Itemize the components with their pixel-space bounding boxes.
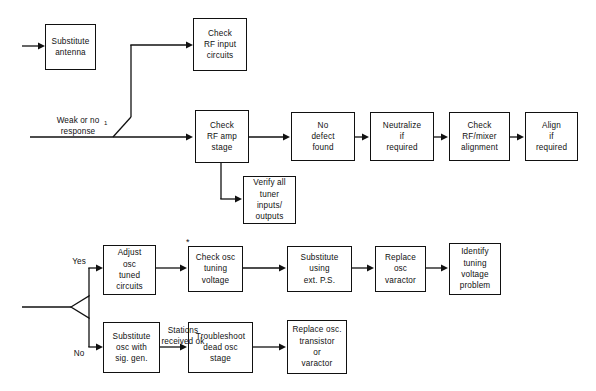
arrowhead-checkosc [180,265,187,272]
edge-label-yes: Yes [66,256,92,267]
wire-branch-diagonal [113,117,131,137]
node-no-defect-found[interactable]: No defect found [291,112,355,161]
node-substitute-antenna[interactable]: Substitute antenna [45,24,96,70]
edge-label-no: No [67,348,91,359]
node-check-rf-input-circuits[interactable]: Check RF input circuits [193,18,247,71]
arrowhead-align [517,134,524,141]
node-adjust-osc-tuned-circuits[interactable]: Adjust osc tuned circuits [103,245,156,295]
footnote-marker-response: 1 [104,120,107,126]
asterisk-marker-check-osc-tuning: * [186,238,190,247]
arrowhead-extps [279,265,286,272]
node-replace-osc-varactor[interactable]: Replace osc varactor [375,246,426,292]
arrowhead-nodefect [283,134,290,141]
node-check-rf-mixer-alignment[interactable]: Check RF/mixer alignment [449,112,510,161]
arrowhead-rf-amp [186,134,193,141]
arrowhead-rf-input [186,42,193,49]
arrowhead-alignment [441,134,448,141]
arrowhead-varactor [367,265,374,272]
arrowhead-substitute-siggen [96,344,103,351]
node-check-osc-tuning-voltage[interactable]: Check osc tuning voltage [188,246,243,292]
arrowhead-adjust-osc [96,265,103,272]
edge-label-weak-or-no-response: Weak or no response [42,115,114,137]
node-substitute-using-ext-ps[interactable]: Substitute using ext. P.S. [287,246,352,292]
arrowhead-neutralize [362,134,369,141]
node-replace-osc-transistor-or-varactor[interactable]: Replace osc. transistor or varactor [287,320,347,374]
arrowhead-verify-tuner [235,196,242,203]
flowchart-canvas: Substitute antenna Check RF input circui… [0,0,596,391]
edge-label-stations-received-ok: Stations received ok [152,325,214,347]
arrowhead-identify [441,265,448,272]
decision-triangle [71,296,89,318]
node-align-if-required[interactable]: Align if required [525,112,578,161]
node-neutralize-if-required[interactable]: Neutralize if required [370,112,434,161]
node-identify-tuning-voltage-problem[interactable]: Identify tuning voltage problem [449,243,501,295]
arrowhead-replace-transistor [279,344,286,351]
node-verify-all-tuner-inputs-outputs[interactable]: Verify all tuner inputs/ outputs [243,176,296,224]
node-check-rf-amp-stage[interactable]: Check RF amp stage [195,110,249,163]
arrowhead-entry-antenna [38,43,45,50]
